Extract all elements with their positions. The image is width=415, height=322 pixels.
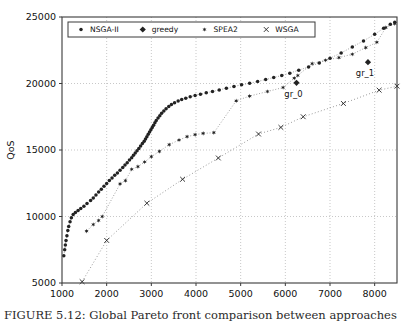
data-point xyxy=(362,39,366,43)
data-point xyxy=(264,78,268,82)
legend-label-spea2: SPEA2 xyxy=(214,25,238,34)
data-point xyxy=(108,179,112,183)
legend-label-greedy: greedy xyxy=(152,25,179,34)
data-point xyxy=(248,81,252,85)
data-point xyxy=(217,88,221,92)
annotation-label-gr_0: gr_0 xyxy=(284,89,302,99)
data-point xyxy=(173,101,177,105)
chart-legend: NSGA-IIgreedySPEA2WSGA xyxy=(68,22,315,37)
data-point xyxy=(105,182,109,186)
legend-label-wsga: WSGA xyxy=(275,25,299,34)
data-point xyxy=(65,234,69,238)
data-point xyxy=(164,107,168,111)
data-point xyxy=(188,95,192,99)
x-tick-label: 8000 xyxy=(363,288,387,299)
data-point xyxy=(184,96,188,100)
data-point xyxy=(297,68,301,72)
annotation-label-gr_1: gr_1 xyxy=(356,68,374,78)
data-point xyxy=(272,76,276,80)
data-point xyxy=(67,225,71,229)
x-tick-label: 5000 xyxy=(229,288,253,299)
data-point xyxy=(373,33,377,37)
data-point xyxy=(79,28,83,32)
data-point xyxy=(389,23,393,27)
data-point xyxy=(116,171,120,175)
x-tick-label: 4000 xyxy=(184,288,208,299)
data-point xyxy=(100,187,104,191)
data-point xyxy=(339,51,343,55)
figure-container: gr_0gr_110002000300040005000600070008000… xyxy=(0,0,415,322)
data-point xyxy=(102,184,106,188)
data-point xyxy=(82,204,86,208)
data-point xyxy=(193,94,197,98)
data-point xyxy=(85,202,89,206)
data-point xyxy=(63,248,67,252)
x-tick-label: 2000 xyxy=(95,288,119,299)
data-point xyxy=(280,74,284,78)
chart-plot-area: gr_0gr_110002000300040005000600070008000… xyxy=(0,0,415,300)
data-point xyxy=(328,56,332,60)
figure-caption-text: FIGURE 5.12: Global Pareto front compari… xyxy=(4,309,415,322)
data-point xyxy=(66,229,70,233)
data-point xyxy=(97,190,101,194)
y-tick-label: 25000 xyxy=(26,11,56,22)
data-point xyxy=(110,176,114,180)
data-point xyxy=(170,103,174,107)
data-point xyxy=(176,99,180,103)
data-point xyxy=(240,83,244,87)
y-axis-title: QoS xyxy=(5,140,16,159)
x-tick-label: 6000 xyxy=(273,288,297,299)
data-point xyxy=(64,239,68,243)
scatter-chart: gr_0gr_110002000300040005000600070008000… xyxy=(0,0,415,300)
data-point xyxy=(125,161,129,165)
data-point xyxy=(89,199,93,203)
data-point xyxy=(94,193,98,197)
data-point xyxy=(351,45,355,49)
data-point xyxy=(70,216,74,220)
data-point xyxy=(225,86,229,90)
data-point xyxy=(307,65,311,69)
y-tick-label: 5000 xyxy=(32,277,56,288)
data-point xyxy=(113,174,117,178)
data-point xyxy=(68,220,72,224)
data-point xyxy=(79,207,83,211)
x-tick-label: 1000 xyxy=(50,288,74,299)
data-point xyxy=(62,254,66,257)
data-point xyxy=(92,196,96,200)
data-point xyxy=(121,166,125,170)
x-tick-label: 7000 xyxy=(318,288,342,299)
data-point xyxy=(232,85,236,89)
data-point xyxy=(256,80,260,84)
y-tick-label: 20000 xyxy=(26,78,56,89)
data-point xyxy=(288,71,292,75)
figure-caption: FIGURE 5.12: Global Pareto front compari… xyxy=(0,309,415,322)
data-point xyxy=(199,92,203,96)
data-point xyxy=(211,90,215,94)
y-tick-label: 15000 xyxy=(26,144,56,155)
data-point xyxy=(64,243,68,247)
data-point xyxy=(180,98,184,102)
data-point xyxy=(318,61,322,64)
x-tick-label: 3000 xyxy=(139,288,163,299)
data-point xyxy=(118,168,122,172)
data-point xyxy=(205,91,209,95)
legend-label-nsga-ii: NSGA-II xyxy=(90,25,119,34)
y-tick-label: 10000 xyxy=(26,211,56,222)
